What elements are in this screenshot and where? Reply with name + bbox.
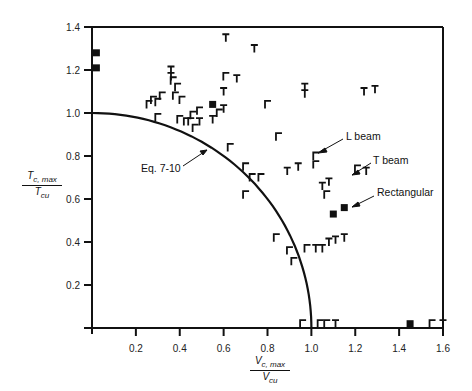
- interaction-curve: [92, 113, 311, 328]
- y-tick-label: 0.2: [66, 280, 80, 291]
- y-tick-label: 1.2: [66, 65, 80, 76]
- l-beam-marker: [160, 92, 166, 100]
- x-label-numerator-sub: c, max: [262, 360, 286, 369]
- y-axis-label: Tc, max Tcu: [22, 170, 62, 200]
- y-tick-label: 1.0: [66, 108, 80, 119]
- t-beam-marker: [371, 86, 378, 94]
- interaction-chart: 0.20.40.60.81.01.21.4 0.20.40.60.81.01.2…: [0, 0, 472, 391]
- t-beam-marker: [325, 239, 332, 247]
- l-beam-marker: [197, 107, 203, 115]
- l-beam-marker: [304, 245, 310, 253]
- rectangular-marker: [93, 64, 100, 71]
- y-axis-ticks: 0.20.40.60.81.01.21.4: [66, 22, 92, 291]
- t-beam-label: T beam: [373, 154, 409, 166]
- t-beam-marker: [233, 75, 240, 83]
- x-tick-label: 1.2: [348, 343, 362, 354]
- x-tick-label: 1.6: [436, 343, 450, 354]
- l-beam-marker: [287, 247, 293, 255]
- l-beam-marker: [318, 320, 324, 328]
- l-beam-marker: [217, 110, 223, 118]
- y-label-numerator-sub: c, max: [33, 175, 57, 184]
- rectangular-marker: [209, 101, 216, 108]
- l-beam-marker: [179, 97, 185, 105]
- y-label-denominator-sub: cu: [41, 191, 49, 200]
- x-tick-label: 1.4: [392, 343, 406, 354]
- rectangular-marker: [341, 204, 348, 211]
- t-beam-marker: [325, 178, 332, 186]
- rectangular-label: Rectangular: [377, 186, 434, 198]
- t-beam-marker: [222, 34, 229, 42]
- y-tick-label: 0.6: [66, 194, 80, 205]
- l-beam-marker: [193, 125, 199, 133]
- rectangular-marker: [93, 49, 100, 56]
- rectangular-marker: [330, 211, 337, 218]
- l-beam-marker: [243, 191, 249, 199]
- x-axis-label: Vc, max Vcu: [250, 355, 290, 385]
- annotation-arrows: [183, 139, 374, 207]
- l-beam-marker: [228, 144, 234, 152]
- l-beam-marker: [313, 161, 319, 169]
- t-beam-marker: [361, 88, 368, 96]
- l-beam-marker: [177, 116, 183, 124]
- l-beam-marker: [155, 99, 161, 107]
- l-beam-marker: [276, 133, 282, 141]
- t-beam-marker: [319, 245, 326, 253]
- t-beam-marker: [332, 320, 339, 328]
- l-beam-marker: [300, 320, 306, 328]
- plot-frame: [84, 27, 443, 334]
- t-beam-marker: [312, 245, 319, 253]
- t-beam-marker: [440, 320, 447, 328]
- t-beam-marker: [332, 236, 339, 244]
- x-tick-label: 0.6: [217, 343, 231, 354]
- eq-7-10-label: Eq. 7-10: [141, 162, 181, 174]
- l-beam-marker: [430, 320, 436, 328]
- t-beam-marker: [251, 45, 258, 53]
- t-beam-marker: [341, 234, 348, 242]
- t-beam-marker: [220, 88, 227, 96]
- x-label-numerator: V: [255, 355, 262, 366]
- l-beam-marker: [324, 320, 330, 328]
- x-label-denominator-sub: cu: [269, 376, 277, 385]
- data-markers: [93, 34, 447, 327]
- l-beam-marker: [265, 101, 271, 109]
- rectangular-marker: [407, 320, 414, 327]
- y-tick-label: 1.4: [66, 22, 80, 33]
- l-beam-marker: [243, 163, 249, 171]
- l-beam-marker: [274, 234, 280, 242]
- t-beam-marker: [301, 90, 308, 98]
- t-beam-marker: [209, 116, 216, 124]
- y-tick-label: 0.4: [66, 237, 80, 248]
- l-beam-marker: [175, 84, 181, 92]
- x-tick-label: 0.4: [173, 343, 187, 354]
- t-beam-marker: [295, 163, 302, 171]
- l-beam-marker: [173, 92, 179, 100]
- y-tick-label: 0.8: [66, 151, 80, 162]
- x-tick-label: 0.2: [129, 343, 143, 354]
- l-beam-label: L beam: [346, 130, 381, 142]
- l-beam-marker: [313, 153, 319, 161]
- t-beam-marker: [363, 168, 370, 176]
- t-beam-marker: [284, 168, 291, 176]
- l-beam-marker: [155, 114, 161, 122]
- l-beam-marker: [291, 258, 297, 266]
- x-tick-label: 0.8: [261, 343, 275, 354]
- l-beam-marker: [223, 73, 229, 81]
- x-tick-label: 1.0: [304, 343, 318, 354]
- t-beam-marker: [319, 183, 326, 191]
- l-beam-marker: [324, 191, 330, 199]
- x-axis-ticks: 0.20.40.60.81.01.21.41.6: [129, 328, 450, 354]
- l-beam-marker: [258, 174, 264, 182]
